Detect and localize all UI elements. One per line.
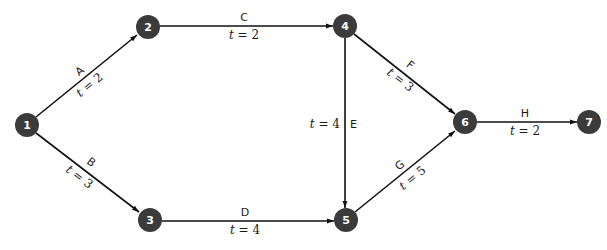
node-3: 3 xyxy=(138,208,162,232)
edge-h-letter: H xyxy=(521,107,529,120)
edge-g-arrow xyxy=(355,131,455,212)
edge-h: H t = 2 xyxy=(477,107,577,138)
edge-b-arrow xyxy=(36,133,139,212)
edge-e-letter: E xyxy=(350,118,357,131)
node-6-label: 6 xyxy=(461,116,469,129)
node-3-label: 3 xyxy=(146,214,154,227)
edge-f-time: t = 3 xyxy=(384,65,416,95)
node-4-label: 4 xyxy=(341,20,349,33)
node-2: 2 xyxy=(136,15,160,39)
node-5: 5 xyxy=(334,208,358,232)
edge-d-time: t = 4 xyxy=(230,223,261,237)
edge-e-time: t = 4 xyxy=(310,117,341,131)
node-4: 4 xyxy=(333,14,357,38)
edge-c-letter: C xyxy=(240,11,248,24)
edge-b: B t = 3 xyxy=(36,133,139,212)
edge-a: A t = 2 xyxy=(36,35,137,117)
edge-h-time: t = 2 xyxy=(510,124,540,138)
edge-g: G t = 5 xyxy=(355,131,455,212)
node-2-label: 2 xyxy=(144,21,152,34)
edge-c-time: t = 2 xyxy=(229,28,259,42)
node-1: 1 xyxy=(15,113,39,137)
edge-e: E t = 4 xyxy=(310,38,357,208)
node-7-label: 7 xyxy=(585,116,593,129)
edge-a-arrow xyxy=(36,35,137,117)
activity-network-diagram: A t = 2 B t = 3 C t = 2 D t = 4 E t = 4 … xyxy=(0,0,607,250)
node-5-label: 5 xyxy=(342,214,350,227)
node-7: 7 xyxy=(577,110,601,134)
edge-f: F t = 3 xyxy=(354,34,455,114)
edge-d: D t = 4 xyxy=(162,206,334,237)
edge-b-letter: B xyxy=(84,155,98,170)
node-1-label: 1 xyxy=(23,119,31,132)
edge-c: C t = 2 xyxy=(160,11,333,42)
node-6: 6 xyxy=(453,110,477,134)
edge-f-letter: F xyxy=(404,58,417,72)
edge-d-letter: D xyxy=(241,206,249,219)
